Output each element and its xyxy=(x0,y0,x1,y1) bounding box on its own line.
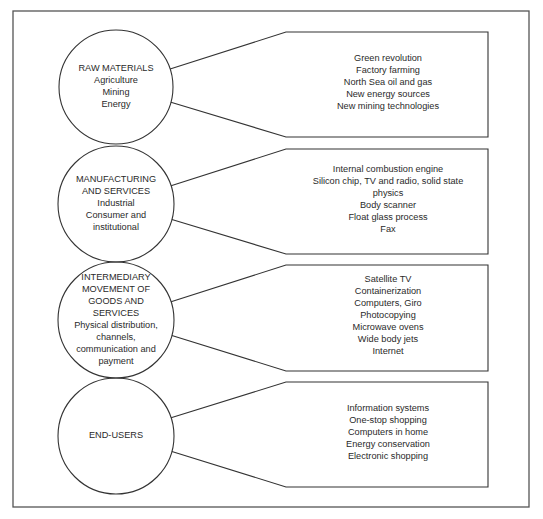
circle-text-line: Industrial xyxy=(63,197,169,209)
circle-text-line: Agriculture xyxy=(63,74,169,86)
box-text-line: Body scanner xyxy=(288,199,488,211)
circle-text-line: INTERMEDIARY xyxy=(63,271,169,283)
box-text-line: Energy conservation xyxy=(288,438,488,450)
circle-label-intermediary-movement: INTERMEDIARY MOVEMENT OF GOODS AND SERVI… xyxy=(63,271,169,367)
box-label-raw-materials-innovations: Green revolution Factory farming North S… xyxy=(288,52,488,112)
box-text-line: physics xyxy=(288,187,488,199)
box-label-intermediary-innovations: Satellite TV Containerization Computers,… xyxy=(288,273,488,357)
box-text-line: Float glass process xyxy=(288,211,488,223)
circle-text-line: Consumer and xyxy=(63,209,169,221)
circle-text-line: MOVEMENT OF xyxy=(63,283,169,295)
circle-text-line: MANUFACTURING xyxy=(63,173,169,185)
box-text-line: North Sea oil and gas xyxy=(288,76,488,88)
box-text-line: Containerization xyxy=(288,285,488,297)
box-text-line: Factory farming xyxy=(288,64,488,76)
circle-text-line: channels, xyxy=(63,331,169,343)
circle-label-end-users: END-USERS xyxy=(63,429,169,441)
circle-label-manufacturing-and-services: MANUFACTURING AND SERVICES Industrial Co… xyxy=(63,173,169,233)
box-text-line: Green revolution xyxy=(288,52,488,64)
circle-text-line: communication and xyxy=(63,343,169,355)
box-text-line: New energy sources xyxy=(288,88,488,100)
box-text-line: Information systems xyxy=(288,402,488,414)
circle-text-line: payment xyxy=(63,355,169,367)
circle-text-line: AND SERVICES xyxy=(63,185,169,197)
box-text-line: Fax xyxy=(288,223,488,235)
box-label-manufacturing-innovations: Internal combustion engine Silicon chip,… xyxy=(288,163,488,235)
circle-text-line: institutional xyxy=(63,221,169,233)
circle-text-line: Mining xyxy=(63,86,169,98)
circle-text-line: Energy xyxy=(63,98,169,110)
box-text-line: Computers in home xyxy=(288,426,488,438)
box-text-line: Electronic shopping xyxy=(288,450,488,462)
box-text-line: New mining technologies xyxy=(288,100,488,112)
circle-text-line: GOODS AND xyxy=(63,295,169,307)
box-text-line: Silicon chip, TV and radio, solid state xyxy=(288,175,488,187)
circle-text-line: END-USERS xyxy=(63,429,169,441)
box-label-end-users-innovations: Information systems One-stop shopping Co… xyxy=(288,402,488,462)
circle-label-raw-materials: RAW MATERIALS Agriculture Mining Energy xyxy=(63,62,169,110)
box-text-line: Internal combustion engine xyxy=(288,163,488,175)
technology-sector-diagram: RAW MATERIALS Agriculture Mining Energy … xyxy=(0,0,543,519)
box-text-line: One-stop shopping xyxy=(288,414,488,426)
box-text-line: Internet xyxy=(288,345,488,357)
box-text-line: Wide body jets xyxy=(288,333,488,345)
circle-text-line: Physical distribution, xyxy=(63,319,169,331)
circle-text-line: SERVICES xyxy=(63,307,169,319)
circle-text-line: RAW MATERIALS xyxy=(63,62,169,74)
box-text-line: Computers, Giro xyxy=(288,297,488,309)
box-text-line: Satellite TV xyxy=(288,273,488,285)
box-text-line: Photocopying xyxy=(288,309,488,321)
box-text-line: Microwave ovens xyxy=(288,321,488,333)
